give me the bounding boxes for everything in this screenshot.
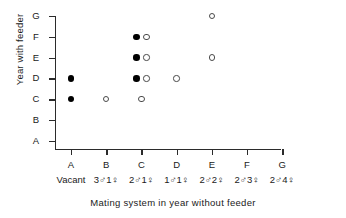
y-tick-label-a: A (28, 136, 44, 146)
y-tick-g (49, 16, 55, 17)
y-tick-label-d: D (28, 73, 44, 83)
data-point-b-c-open (103, 96, 109, 102)
y-tick-b (49, 120, 55, 121)
y-axis-title: Year with feeder (14, 0, 25, 115)
y-tick-f (49, 37, 55, 38)
data-point-c-e-open (143, 54, 149, 60)
x-tick-e (212, 149, 213, 155)
data-point-c-f-filled (133, 34, 139, 40)
y-tick-label-e: E (28, 53, 44, 63)
data-point-c-d-open (143, 75, 149, 81)
x-tick-b (106, 149, 107, 155)
x-tick-g (282, 149, 283, 155)
y-tick-a (49, 141, 55, 142)
x-tick-c (141, 149, 142, 155)
y-tick-d (49, 78, 55, 79)
data-point-c-f-open (143, 34, 149, 40)
data-point-a-d-filled (68, 75, 74, 81)
y-tick-e (49, 58, 55, 59)
y-tick-c (49, 99, 55, 100)
data-point-e-g-open (209, 13, 215, 19)
data-point-a-c-filled (68, 96, 74, 102)
x-tick-f (247, 149, 248, 155)
data-point-c-c-open (138, 96, 144, 102)
y-tick-label-g: G (28, 11, 44, 21)
x-tick-label-g: G (259, 160, 305, 170)
x-tick-d (177, 149, 178, 155)
data-point-c-e-filled (133, 54, 139, 60)
y-axis-line (55, 16, 56, 150)
y-tick-label-b: B (28, 115, 44, 125)
scatter-plot-figure: Year with feeder ABCDEFG AVacantB3♂1♀C2♂… (0, 0, 346, 218)
data-point-c-d-filled (133, 75, 139, 81)
data-point-d-d-open (173, 75, 179, 81)
x-tick-sublabel-g: 2♂4♀ (256, 175, 308, 185)
x-axis-title: Mating system in year without feeder (0, 197, 346, 208)
y-tick-label-c: C (28, 94, 44, 104)
y-tick-label-f: F (28, 32, 44, 42)
data-point-e-e-open (209, 54, 215, 60)
x-tick-a (71, 149, 72, 155)
